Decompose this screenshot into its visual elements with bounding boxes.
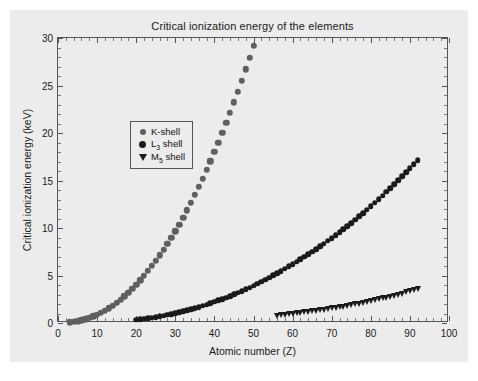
x-tick bbox=[261, 318, 262, 321]
x-tick bbox=[418, 38, 419, 41]
y-tick bbox=[58, 238, 61, 239]
x-tick bbox=[238, 318, 239, 321]
data-point-k-shell bbox=[239, 77, 245, 83]
y-tick bbox=[444, 314, 447, 315]
y-tick bbox=[58, 171, 61, 172]
data-point-k-shell bbox=[235, 88, 241, 94]
y-tick bbox=[58, 152, 61, 153]
x-tick bbox=[332, 316, 333, 321]
x-tick bbox=[214, 38, 215, 43]
y-tick bbox=[58, 76, 61, 77]
y-tick bbox=[442, 228, 447, 229]
data-point-k-shell bbox=[227, 110, 233, 116]
x-tick bbox=[300, 318, 301, 321]
y-tick-label: 15 bbox=[42, 175, 53, 186]
x-tick bbox=[394, 38, 395, 41]
data-point-k-shell bbox=[207, 158, 213, 164]
x-tick bbox=[105, 38, 106, 41]
x-tick bbox=[144, 38, 145, 41]
x-tick bbox=[332, 38, 333, 43]
x-tick bbox=[128, 318, 129, 321]
l3-shell-marker-icon bbox=[136, 141, 149, 148]
x-tick-label: 50 bbox=[248, 328, 259, 339]
y-tick bbox=[58, 67, 61, 68]
x-tick bbox=[410, 316, 411, 321]
y-tick bbox=[58, 181, 63, 182]
figure-canvas: Critical ionization energy of the elemen… bbox=[0, 0, 478, 381]
y-tick bbox=[58, 124, 61, 125]
y-tick bbox=[444, 105, 447, 106]
y-tick bbox=[58, 105, 61, 106]
x-tick bbox=[269, 318, 270, 321]
x-tick bbox=[449, 38, 450, 43]
y-tick bbox=[58, 133, 63, 134]
y-tick bbox=[444, 114, 447, 115]
x-tick bbox=[379, 318, 380, 321]
data-point-k-shell bbox=[188, 200, 194, 206]
x-tick bbox=[433, 38, 434, 41]
data-point-k-shell bbox=[250, 42, 256, 48]
x-tick bbox=[293, 316, 294, 321]
data-point-k-shell bbox=[219, 130, 225, 136]
x-tick bbox=[246, 38, 247, 41]
x-tick-label: 20 bbox=[131, 328, 142, 339]
data-point-k-shell bbox=[168, 234, 174, 240]
x-tick bbox=[426, 38, 427, 41]
y-tick bbox=[442, 86, 447, 87]
x-tick bbox=[418, 318, 419, 321]
x-tick bbox=[175, 38, 176, 43]
x-tick bbox=[355, 318, 356, 321]
x-tick bbox=[433, 318, 434, 321]
legend-item-l3-shell: L3 shell bbox=[136, 138, 185, 151]
x-tick bbox=[363, 318, 364, 321]
y-tick bbox=[58, 228, 63, 229]
y-tick bbox=[58, 190, 61, 191]
y-tick bbox=[442, 133, 447, 134]
x-tick bbox=[167, 38, 168, 41]
x-tick bbox=[449, 316, 450, 321]
x-tick bbox=[191, 318, 192, 321]
x-tick bbox=[379, 38, 380, 41]
x-tick-label: 100 bbox=[441, 328, 458, 339]
y-tick bbox=[58, 209, 61, 210]
y-tick bbox=[444, 209, 447, 210]
y-tick bbox=[58, 95, 61, 96]
y-tick bbox=[444, 162, 447, 163]
x-tick bbox=[246, 318, 247, 321]
x-tick bbox=[214, 316, 215, 321]
x-tick bbox=[191, 38, 192, 41]
x-tick bbox=[97, 38, 98, 43]
data-point-k-shell bbox=[199, 175, 205, 181]
x-tick bbox=[230, 38, 231, 41]
y-tick bbox=[58, 162, 61, 163]
x-tick bbox=[269, 38, 270, 41]
x-tick bbox=[340, 318, 341, 321]
data-point-k-shell bbox=[211, 149, 217, 155]
x-tick bbox=[89, 38, 90, 41]
x-tick bbox=[386, 318, 387, 321]
y-tick bbox=[58, 276, 63, 277]
x-tick-label: 70 bbox=[326, 328, 337, 339]
x-tick bbox=[66, 38, 67, 41]
y-tick bbox=[442, 38, 447, 39]
x-tick bbox=[167, 318, 168, 321]
x-tick bbox=[371, 316, 372, 321]
legend-item-m5-shell: M5 shell bbox=[136, 151, 185, 164]
x-tick bbox=[308, 318, 309, 321]
y-tick-label: 20 bbox=[42, 128, 53, 139]
data-point-k-shell bbox=[180, 214, 186, 220]
y-axis-title: Critical ionization energy (keV) bbox=[20, 37, 34, 322]
x-tick bbox=[261, 38, 262, 41]
legend-label-k-shell: K-shell bbox=[151, 126, 180, 137]
x-tick bbox=[285, 318, 286, 321]
y-tick bbox=[444, 67, 447, 68]
data-point-k-shell bbox=[203, 167, 209, 173]
x-tick-label: 10 bbox=[92, 328, 103, 339]
x-tick-label: 60 bbox=[287, 328, 298, 339]
y-tick bbox=[58, 200, 61, 201]
x-tick bbox=[340, 38, 341, 41]
data-point-l3-shell bbox=[415, 157, 421, 163]
x-tick bbox=[183, 318, 184, 321]
x-axis-title: Atomic number (Z) bbox=[57, 345, 448, 357]
x-tick bbox=[105, 318, 106, 321]
